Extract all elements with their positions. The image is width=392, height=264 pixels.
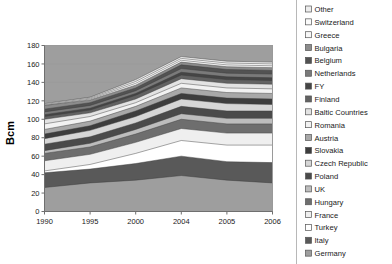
legend-label: France <box>315 211 339 220</box>
y-axis-tick-label: 160 <box>27 60 40 69</box>
legend-label: Other <box>315 5 334 14</box>
legend-swatch <box>306 147 312 153</box>
y-axis-tick-label: 140 <box>27 78 40 87</box>
legend-swatch <box>306 224 312 230</box>
y-axis-tick-label: 60 <box>31 152 39 161</box>
legend-swatch <box>306 186 312 192</box>
legend-swatch <box>306 19 312 25</box>
x-axis-tick-label: 1990 <box>36 217 53 226</box>
legend-swatch <box>306 173 312 179</box>
legend-label: Romania <box>315 121 346 130</box>
legend-label: UK <box>315 185 326 194</box>
legend-label: Bulgaria <box>315 44 344 53</box>
legend-swatch <box>306 45 312 51</box>
x-axis-tick-label: 2006 <box>264 217 281 226</box>
y-axis-title: Bcm <box>4 121 16 145</box>
y-axis-tick-label: 120 <box>27 97 40 106</box>
legend-swatch <box>306 70 312 76</box>
legend-swatch <box>306 212 312 218</box>
y-axis-tick-label: 40 <box>31 170 39 179</box>
legend-swatch <box>306 250 312 256</box>
legend-swatch <box>306 6 312 12</box>
legend-label: Hungary <box>315 198 344 207</box>
legend-label: Belgium <box>315 56 342 65</box>
y-axis-tick-label: 0 <box>35 207 39 216</box>
x-axis-tick-label: 2005 <box>219 217 236 226</box>
legend-label: Baltic Countries <box>315 108 368 117</box>
legend-swatch <box>306 199 312 205</box>
legend-label: Greece <box>315 31 340 40</box>
legend-label: Italy <box>315 236 329 245</box>
legend-label: Austria <box>315 134 339 143</box>
legend-swatch <box>306 96 312 102</box>
stacked-area-chart: 020406080100120140160180 199019952000200… <box>0 0 392 264</box>
y-axis-tick-label: 80 <box>31 133 39 142</box>
legend-label: Finland <box>315 95 340 104</box>
legend-swatch <box>306 83 312 89</box>
x-axis-tick-label: 2004 <box>173 217 190 226</box>
y-axis-tick-label: 20 <box>31 189 39 198</box>
legend-swatch <box>306 32 312 38</box>
legend-label: Czech Republic <box>315 159 368 168</box>
legend-swatch <box>306 57 312 63</box>
y-axis-tick-label: 100 <box>27 115 40 124</box>
x-axis-tick-label: 2000 <box>127 217 144 226</box>
legend-label: Netherlands <box>315 69 356 78</box>
legend-label: Poland <box>315 172 339 181</box>
y-axis-tick-label: 180 <box>27 41 40 50</box>
legend-swatch <box>306 122 312 128</box>
x-axis-tick-label: 1995 <box>82 217 99 226</box>
legend-label: Turkey <box>315 223 338 232</box>
legend-swatch <box>306 135 312 141</box>
legend-swatch <box>306 109 312 115</box>
legend-label: Slovakia <box>315 146 344 155</box>
legend-swatch <box>306 237 312 243</box>
legend-label: FY <box>315 82 325 91</box>
legend-label: Switzerland <box>315 18 354 27</box>
legend-label: Germany <box>315 249 346 258</box>
legend-swatch <box>306 160 312 166</box>
chart-svg: 020406080100120140160180 199019952000200… <box>0 0 392 264</box>
